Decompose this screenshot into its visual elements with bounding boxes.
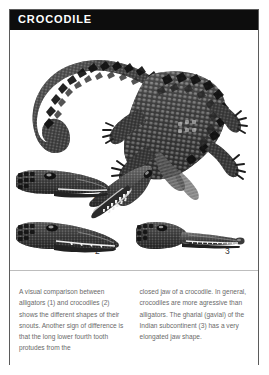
alligator-head-figure — [16, 170, 110, 198]
gharial-head-figure — [136, 222, 245, 249]
callout-label-2: 2 — [95, 247, 100, 256]
crocodile-comparison-plate: 1 2 3 — [10, 30, 258, 270]
crocodile-illustration-svg — [10, 30, 258, 270]
titlebar: CROCODILE — [10, 10, 258, 30]
caption-column-left: A visual comparison between alligators (… — [19, 286, 129, 357]
crocodile-head-figure — [16, 222, 119, 252]
page-title: CROCODILE — [18, 13, 92, 25]
caption-block: A visual comparison between alligators (… — [10, 271, 258, 365]
figure-frame: CROCODILE — [9, 9, 259, 365]
callout-label-1: 1 — [93, 196, 98, 205]
caption-column-right: closed jaw of a crocodile. In general, c… — [140, 286, 250, 357]
figure-page: CROCODILE — [0, 0, 269, 375]
callout-label-3: 3 — [225, 247, 230, 256]
